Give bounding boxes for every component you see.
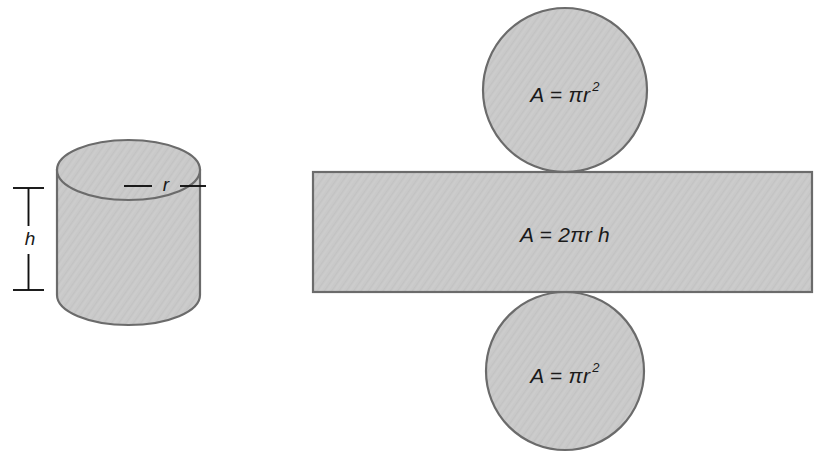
top-cap-formula-lhs: A =	[528, 83, 568, 106]
figure-canvas: r h A = πr2	[0, 0, 824, 458]
bottom-cap-formula: A = πr2	[528, 360, 600, 386]
top-cap-formula-pi: π	[569, 83, 584, 106]
lateral-surface-formula: A = 2πr h	[518, 223, 610, 246]
bottom-cap-formula-exponent: 2	[591, 360, 600, 375]
cylinder-net-figure: r h A = πr2	[0, 0, 824, 458]
height-label: h	[25, 228, 36, 249]
bottom-cap-formula-pi: π	[569, 364, 584, 387]
bottom-cap-formula-var: r	[583, 364, 591, 387]
top-cap-formula-exponent: 2	[591, 79, 600, 94]
cylinder-top-ellipse	[57, 140, 200, 200]
top-cap-formula: A = πr2	[528, 79, 600, 105]
bottom-cap-formula-lhs: A =	[528, 364, 568, 387]
height-dimension: h	[13, 188, 44, 290]
lateral-formula-lhs: A = 2	[518, 223, 570, 246]
lateral-formula-tail: r h	[585, 223, 610, 246]
radius-label: r	[163, 174, 170, 195]
cylinder-group: r h	[13, 140, 206, 325]
top-cap-formula-var: r	[583, 83, 591, 106]
lateral-formula-pi: π	[570, 223, 585, 246]
net-group: A = πr2 A = 2πr h A = πr2	[313, 8, 812, 450]
